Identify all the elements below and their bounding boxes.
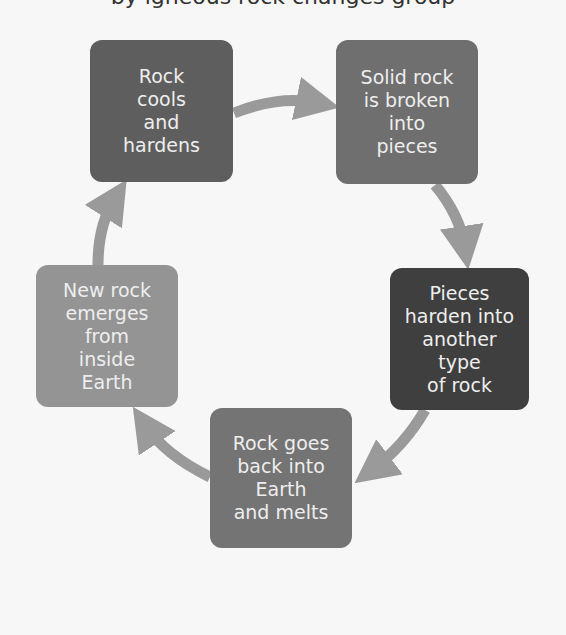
box-rock-goes-back: Rock goes back into Earth and melts: [210, 408, 352, 548]
box-label: Pieces harden into another type of rock: [405, 282, 514, 397]
box-label: Rock goes back into Earth and melts: [233, 432, 330, 524]
box-solid-rock-broken: Solid rock is broken into pieces: [336, 40, 478, 184]
box-new-rock-emerges: New rock emerges from inside Earth: [36, 265, 178, 407]
box-rock-cools: Rock cools and hardens: [90, 40, 233, 182]
box-pieces-harden: Pieces harden into another type of rock: [390, 268, 529, 410]
arrow-icon: [234, 101, 318, 113]
arrow-icon: [98, 198, 115, 265]
arrow-icon: [435, 185, 465, 248]
box-label: Rock cools and hardens: [123, 65, 200, 157]
arrow-icon: [372, 410, 425, 470]
box-label: New rock emerges from inside Earth: [63, 279, 151, 394]
arrow-icon: [145, 425, 210, 477]
box-label: Solid rock is broken into pieces: [361, 66, 454, 158]
